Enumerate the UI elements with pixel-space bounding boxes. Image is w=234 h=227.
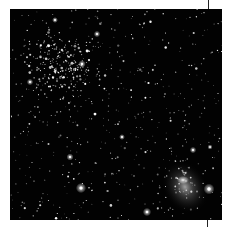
bottom-tick-mark [207, 220, 208, 227]
starfield-canvas [10, 9, 222, 220]
starfield-image [10, 9, 222, 220]
top-tick-mark [208, 0, 209, 9]
